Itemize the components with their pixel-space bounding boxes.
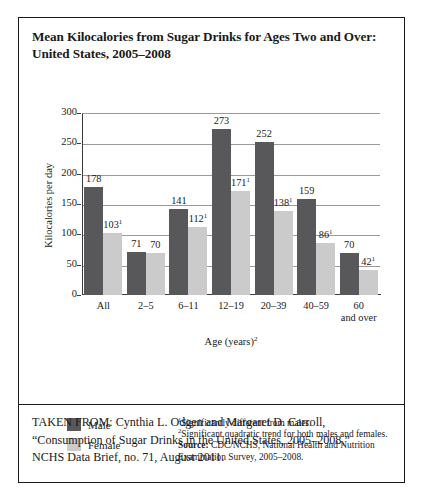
bar-group	[169, 113, 207, 295]
y-axis-tick-mark	[77, 174, 81, 175]
bar-group	[127, 113, 165, 295]
y-axis-tick-label: 250	[43, 136, 77, 147]
bar-group	[297, 113, 335, 295]
bar-female	[188, 227, 207, 295]
bar-male	[340, 253, 359, 295]
x-axis-category-label: 40–59	[303, 300, 329, 312]
y-axis-tick-mark	[77, 295, 81, 296]
x-axis-category-label: All	[97, 300, 110, 312]
bar-female	[274, 211, 293, 295]
bar-male	[84, 187, 103, 295]
bar-male	[127, 252, 146, 295]
bar-male	[169, 209, 188, 295]
bar-female	[231, 191, 250, 295]
bar-group	[212, 113, 250, 295]
y-axis-tick-mark	[77, 113, 81, 114]
y-axis-tick-label: 100	[43, 227, 77, 238]
figure-card: Mean Kilocalories from Sugar Drinks for …	[18, 17, 405, 483]
x-axis-category-label: 12–19	[218, 300, 244, 312]
bar-female	[316, 243, 335, 295]
bar-male	[297, 199, 316, 295]
bar-male	[255, 142, 274, 295]
figure-title: Mean Kilocalories from Sugar Drinks for …	[32, 28, 392, 62]
citation-line-2: “Consumption of Sugar Drinks in the Unit…	[32, 432, 392, 450]
x-axis-category-label: 6–11	[178, 300, 198, 312]
y-axis-tick-mark	[77, 143, 81, 144]
bar-chart: Kilocalories per day 050100150200250300 …	[19, 78, 404, 403]
y-axis-tick-label: 150	[43, 197, 77, 208]
y-axis-tick-mark	[77, 234, 81, 235]
bar-group	[84, 113, 122, 295]
y-axis-tick-label: 300	[43, 106, 77, 117]
x-axis-title: Age (years)2	[82, 336, 380, 347]
x-axis-category-label: 20–39	[261, 300, 287, 312]
citation-line-1: TAKEN FROM: Cynthia L. Odgen and Margare…	[32, 414, 392, 432]
citation-line-3: NCHS Data Brief, no. 71, August 2011.	[32, 449, 392, 467]
bar-female	[146, 253, 165, 295]
y-axis-tick-label: 200	[43, 167, 77, 178]
bar-female	[103, 233, 122, 295]
x-axis-title-text: Age (years)	[205, 336, 254, 347]
y-axis-tick-label: 0	[43, 288, 77, 299]
section-divider	[19, 404, 404, 405]
x-axis-category-label: 2–5	[138, 300, 153, 312]
bar-group	[340, 113, 378, 295]
y-axis-tick-mark	[77, 204, 81, 205]
bar-male	[212, 129, 231, 295]
citation-block: TAKEN FROM: Cynthia L. Odgen and Margare…	[32, 414, 392, 467]
bar-female	[359, 270, 378, 295]
y-axis-tick-mark	[77, 265, 81, 266]
bar-group	[255, 113, 293, 295]
x-axis-footnote-marker: 2	[254, 335, 258, 343]
x-axis-category-label: 60and over	[341, 300, 377, 323]
y-axis-tick-label: 50	[43, 258, 77, 269]
y-axis-tick-labels: 050100150200250300	[41, 113, 77, 295]
